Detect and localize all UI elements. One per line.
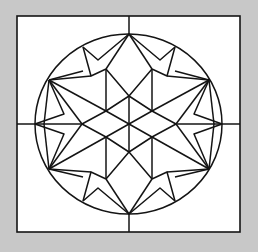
- quilt-block-diagram: [0, 0, 258, 252]
